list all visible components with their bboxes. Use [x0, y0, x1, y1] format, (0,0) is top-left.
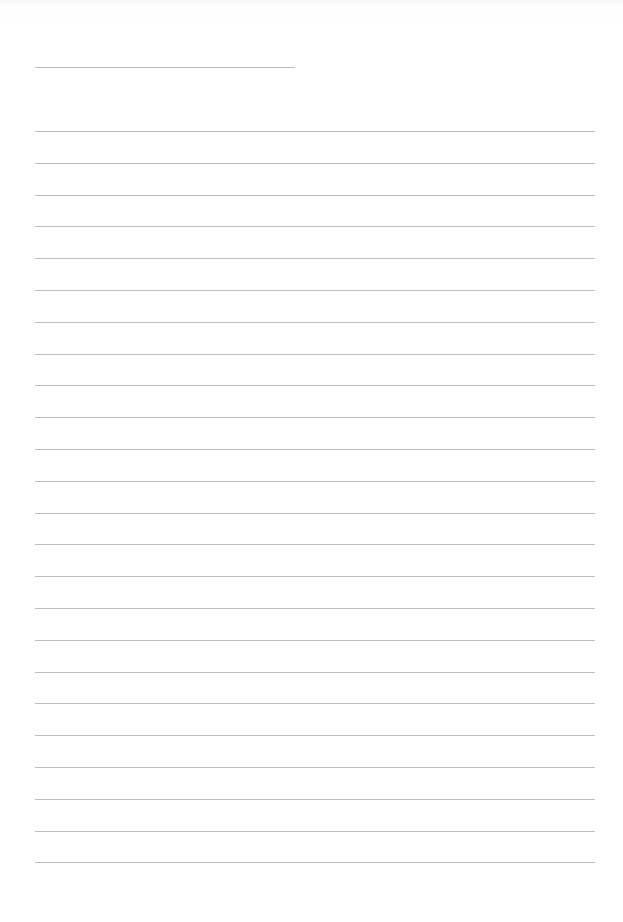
ruled-line: [35, 544, 595, 545]
ruled-line: [35, 767, 595, 768]
ruled-line: [35, 640, 595, 641]
ruled-line: [35, 513, 595, 514]
ruled-line: [35, 799, 595, 800]
ruled-line: [35, 703, 595, 704]
ruled-line: [35, 131, 595, 132]
ruled-line: [35, 322, 595, 323]
ruled-line: [35, 354, 595, 355]
ruled-line: [35, 417, 595, 418]
ruled-line: [35, 195, 595, 196]
ruled-line: [35, 862, 595, 863]
ruled-line: [35, 258, 595, 259]
title-write-line: [35, 67, 295, 68]
ruled-line: [35, 385, 595, 386]
ruled-line: [35, 735, 595, 736]
ruled-line: [35, 672, 595, 673]
lined-paper-page: [0, 0, 623, 922]
ruled-line: [35, 290, 595, 291]
ruled-line: [35, 481, 595, 482]
ruled-line: [35, 226, 595, 227]
ruled-line: [35, 608, 595, 609]
ruled-line: [35, 831, 595, 832]
ruled-line: [35, 163, 595, 164]
ruled-line: [35, 449, 595, 450]
ruled-line: [35, 576, 595, 577]
